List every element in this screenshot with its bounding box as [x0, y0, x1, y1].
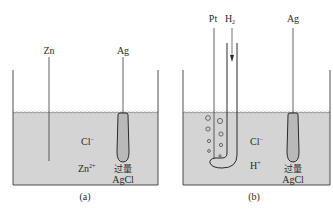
cell-b-liquid-surface: [183, 111, 330, 114]
caption-a: (a): [79, 191, 90, 203]
excess-label-a: 过量: [114, 163, 132, 174]
excess-label-b: 过量: [284, 163, 302, 174]
agcl-coating-a: [117, 113, 129, 162]
cell-a-liquid-surface: [13, 111, 158, 114]
cell-a-electrolyte: [13, 112, 158, 185]
h2-label: H2: [225, 13, 235, 25]
zn-label: Zn: [43, 45, 54, 56]
agcl-label-b: AgCl: [282, 174, 304, 185]
cell-a: Zn Ag Cl− Zn2+ 过量 AgCl (a): [13, 45, 158, 203]
cell-b-electrolyte: [183, 112, 330, 185]
electrochemical-cells-diagram: Zn Ag Cl− Zn2+ 过量 AgCl (a): [0, 0, 333, 212]
agcl-label-a: AgCl: [112, 174, 134, 185]
hydrogen-flow-arrowhead-icon: [230, 55, 234, 62]
ag-label-a: Ag: [117, 45, 129, 56]
cell-b: Pt H2 Ag Cl− H+ 过量 AgCl (b): [183, 13, 330, 203]
caption-b: (b): [248, 191, 260, 203]
ag-label-b: Ag: [287, 13, 299, 24]
agcl-coating-b: [287, 113, 299, 162]
pt-label: Pt: [209, 13, 218, 24]
